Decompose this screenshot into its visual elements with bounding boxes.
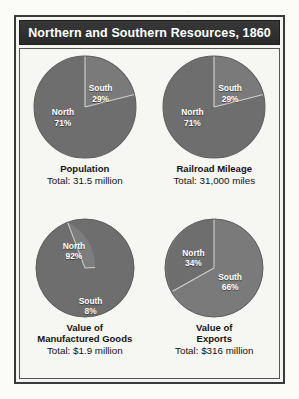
chart-manufactured-goods: North 92% South 8% Value of Manufactured… — [20, 214, 150, 379]
chart-caption-title: Population — [47, 163, 123, 174]
slice-label-south: South 66% — [218, 272, 242, 293]
pie-exports: North 34% South 66% — [164, 218, 264, 318]
pie-population: South 29% North 71% — [33, 55, 137, 159]
chart-caption-total: Total: 31,000 miles — [173, 175, 255, 187]
chart-caption-title-line2: Exports — [175, 333, 253, 344]
pie-chart-svg — [162, 55, 266, 159]
pie-manufactured-goods: North 92% South 8% — [35, 218, 135, 318]
slice-label-north: North 71% — [181, 107, 203, 128]
slice-label-south: South 29% — [89, 83, 113, 104]
chart-caption: Population Total: 31.5 million — [47, 163, 123, 187]
chart-caption-title-line2: Manufactured Goods — [37, 333, 132, 344]
page-title: Northern and Southern Resources, 1860 — [28, 26, 271, 40]
chart-railroad-mileage: South 29% North 71% Railroad Mileage Tot… — [150, 49, 280, 214]
chart-caption: Railroad Mileage Total: 31,000 miles — [173, 163, 255, 187]
chart-caption-total: Total: 31.5 million — [47, 175, 123, 187]
chart-caption-title-line1: Value of — [37, 322, 132, 333]
slice-label-north: North 92% — [63, 241, 85, 262]
pie-railroad-mileage: South 29% North 71% — [162, 55, 266, 159]
chart-caption-total: Total: $316 million — [175, 345, 253, 357]
slice-label-north: North 34% — [182, 248, 204, 269]
chart-caption-title: Railroad Mileage — [173, 163, 255, 174]
slice-label-south: South 29% — [218, 83, 242, 104]
slice-label-south: South 8% — [79, 296, 103, 317]
charts-panel: South 29% North 71% Population Total: 31… — [19, 48, 280, 379]
chart-caption-total: Total: $1.9 million — [37, 345, 132, 357]
chart-population: South 29% North 71% Population Total: 31… — [20, 49, 150, 214]
chart-exports: North 34% South 66% Value of Exports Tot… — [150, 214, 280, 379]
figure-frame: Northern and Southern Resources, 1860 — [14, 15, 285, 384]
charts-grid: South 29% North 71% Population Total: 31… — [20, 49, 279, 378]
chart-caption: Value of Manufactured Goods Total: $1.9 … — [37, 322, 132, 357]
pie-chart-svg — [33, 55, 137, 159]
slice-label-north: North 71% — [52, 107, 74, 128]
pie-chart-svg — [164, 218, 264, 318]
figure-title-bar: Northern and Southern Resources, 1860 — [19, 20, 280, 45]
chart-caption-title-line1: Value of — [175, 322, 253, 333]
chart-caption: Value of Exports Total: $316 million — [175, 322, 253, 357]
